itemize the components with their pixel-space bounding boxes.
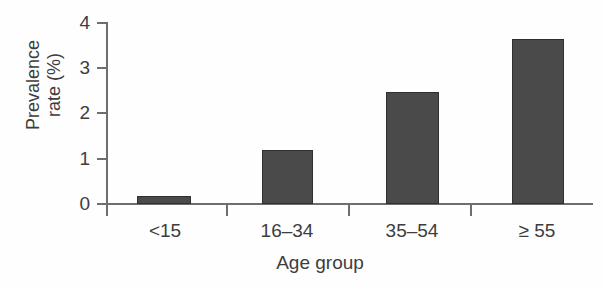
y-tick-mark-2 xyxy=(97,112,107,114)
y-tick-mark-4 xyxy=(97,22,107,24)
x-tick-label-16-34: 16–34 xyxy=(227,220,347,242)
bar-age-55-plus xyxy=(512,39,564,204)
x-tick-mark-1 xyxy=(226,205,228,216)
y-tick-label-2: 2 xyxy=(60,103,90,122)
x-tick-mark-0 xyxy=(106,205,108,216)
y-axis-title: Prevalence rate (%) xyxy=(23,5,65,165)
bar-age-under-15 xyxy=(137,196,191,204)
x-tick-label-55-plus: ≥ 55 xyxy=(477,220,597,242)
plot-area: Prevalence rate (%) 4 3 2 1 0 <15 16–34 … xyxy=(0,0,603,290)
y-tick-label-1: 1 xyxy=(60,149,90,168)
x-tick-mark-2 xyxy=(348,205,350,216)
y-tick-label-4: 4 xyxy=(60,13,90,32)
x-tick-label-35-54: 35–54 xyxy=(352,220,472,242)
x-axis-title: Age group xyxy=(180,252,460,274)
y-tick-label-0: 0 xyxy=(60,194,90,213)
x-tick-mark-3 xyxy=(470,205,472,216)
bar-age-35-54 xyxy=(386,92,439,204)
x-tick-label-under-15: <15 xyxy=(105,220,225,242)
y-tick-mark-1 xyxy=(97,158,107,160)
bar-chart-figure: Prevalence rate (%) 4 3 2 1 0 <15 16–34 … xyxy=(0,0,603,290)
y-tick-label-3: 3 xyxy=(60,58,90,77)
bar-age-16-34 xyxy=(262,150,313,204)
y-tick-mark-3 xyxy=(97,67,107,69)
